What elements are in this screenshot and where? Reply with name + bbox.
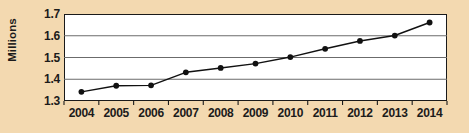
- x-axis-tickmarks: [64, 101, 447, 105]
- data-point-marker: [148, 82, 154, 88]
- y-tick-label: 1.5: [26, 51, 60, 65]
- y-tick-label: 1.4: [26, 72, 60, 86]
- data-point-marker: [427, 20, 433, 26]
- data-point-marker: [79, 89, 85, 95]
- x-axis-tick-labels: 2004200520062007200820092010201120122013…: [64, 106, 447, 126]
- y-axis-tick-labels: 1.31.41.51.61.7: [26, 14, 60, 101]
- x-tick-label: 2014: [408, 106, 452, 120]
- line-chart: Millions 1.31.41.51.61.7 200420052006200…: [0, 0, 469, 133]
- gridlines: [64, 36, 447, 80]
- data-point-marker: [392, 33, 398, 39]
- data-point-marker: [253, 61, 259, 67]
- data-point-marker: [113, 83, 119, 89]
- y-tick-label: 1.6: [26, 29, 60, 43]
- plot-svg: [64, 14, 447, 101]
- data-point-marker: [322, 46, 328, 52]
- data-point-marker: [357, 38, 363, 44]
- data-point-marker: [287, 54, 293, 60]
- y-axis-title: Millions: [6, 10, 18, 70]
- chart-title: [0, 0, 469, 3]
- data-point-marker: [183, 69, 189, 75]
- y-tick-label: 1.7: [26, 7, 60, 21]
- y-tick-label: 1.3: [26, 94, 60, 108]
- data-point-marker: [218, 65, 224, 71]
